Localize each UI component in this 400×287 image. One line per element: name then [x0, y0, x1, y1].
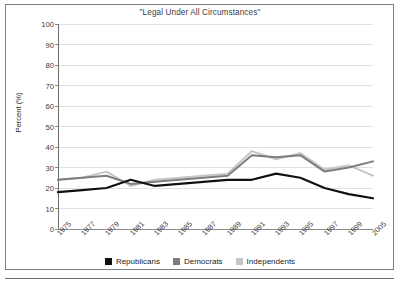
- y-tick-label: 10: [46, 204, 54, 213]
- y-tick-label: 90: [46, 40, 54, 49]
- y-axis-label: Percent (%): [14, 83, 23, 143]
- y-tick-label: 0: [50, 225, 54, 234]
- legend-item: Democrats: [173, 257, 223, 266]
- y-tick-label: 80: [46, 61, 54, 70]
- y-tick-label: 50: [46, 122, 54, 131]
- legend-item: Independents: [236, 257, 296, 266]
- legend-label: Independents: [247, 257, 296, 266]
- legend-swatch-icon: [173, 258, 180, 265]
- y-tick-label: 70: [46, 81, 54, 90]
- chart-figure: "Legal Under All Circumstances" Percent …: [0, 0, 400, 287]
- plot-svg: [58, 24, 373, 229]
- y-axis-ticks: 0102030405060708090100: [24, 24, 54, 229]
- legend-label: Republicans: [116, 257, 160, 266]
- y-tick-label: 60: [46, 102, 54, 111]
- legend-swatch-icon: [105, 258, 112, 265]
- chart-title: "Legal Under All Circumstances": [0, 8, 400, 17]
- y-tick-label: 30: [46, 163, 54, 172]
- y-tick-label: 20: [46, 184, 54, 193]
- legend-swatch-icon: [236, 258, 243, 265]
- y-tick-label: 100: [41, 20, 54, 29]
- legend-item: Republicans: [105, 257, 160, 266]
- y-tick-label: 40: [46, 143, 54, 152]
- chart-legend: RepublicansDemocratsIndependents: [0, 257, 400, 266]
- plot-area: [58, 24, 373, 229]
- legend-label: Democrats: [184, 257, 223, 266]
- footer-rule: [5, 278, 394, 279]
